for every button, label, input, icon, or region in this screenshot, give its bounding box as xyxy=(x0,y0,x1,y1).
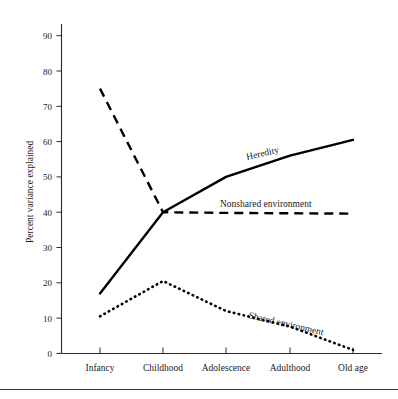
y-axis-ticks xyxy=(57,36,62,354)
y-tick-label-60: 60 xyxy=(43,137,53,147)
y-tick-label-30: 30 xyxy=(43,243,53,253)
y-tick-label-0: 0 xyxy=(48,349,53,359)
x-axis-category-labels: Infancy Childhood Adolescence Adulthood … xyxy=(85,363,367,373)
y-axis-tick-labels: 90 80 70 60 50 40 30 20 10 0 xyxy=(43,31,53,359)
x-axis-ticks xyxy=(100,348,353,354)
y-tick-label-20: 20 xyxy=(43,278,53,288)
series-label-nonshared-environment: Nonshared environment xyxy=(220,199,312,209)
line-chart: 90 80 70 60 50 40 30 20 10 0 Percent var… xyxy=(0,0,398,399)
y-axis-title: Percent variance explained xyxy=(25,140,35,243)
y-tick-label-10: 10 xyxy=(43,314,53,324)
x-label-infancy: Infancy xyxy=(85,363,114,373)
y-tick-label-80: 80 xyxy=(43,67,53,77)
figure-container: 90 80 70 60 50 40 30 20 10 0 Percent var… xyxy=(0,0,398,399)
x-label-adolescence: Adolescence xyxy=(202,363,251,373)
y-tick-label-90: 90 xyxy=(43,31,53,41)
x-label-adulthood: Adulthood xyxy=(270,363,311,373)
series-label-shared-environment: Shared environment xyxy=(248,310,325,337)
series-line-shared-environment xyxy=(100,281,353,350)
series-line-nonshared-environment xyxy=(100,89,353,214)
figure-footer-rule xyxy=(0,389,398,390)
y-tick-label-50: 50 xyxy=(43,172,53,182)
x-label-old-age: Old age xyxy=(338,363,368,373)
y-tick-label-70: 70 xyxy=(43,102,53,112)
x-label-childhood: Childhood xyxy=(143,363,183,373)
y-tick-label-40: 40 xyxy=(43,208,53,218)
series-label-heredity: Heredity xyxy=(245,145,280,162)
